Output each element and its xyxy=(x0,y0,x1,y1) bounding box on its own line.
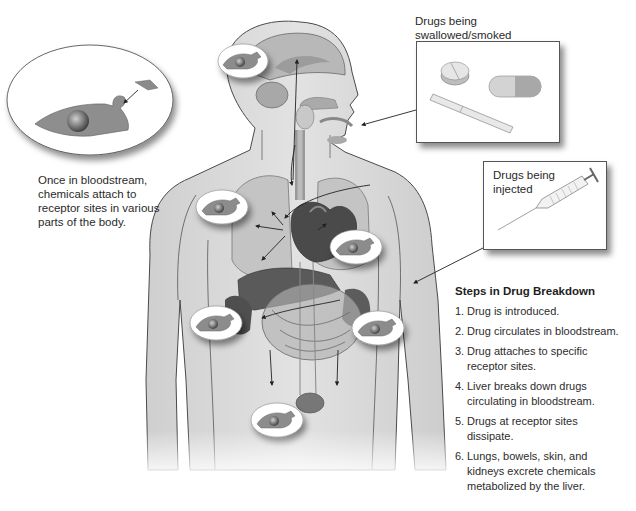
swallowed-box xyxy=(416,41,560,143)
step-number: 2. xyxy=(455,324,467,339)
step-number: 3. xyxy=(455,344,467,374)
receptor-site-left-shoulder xyxy=(196,190,248,224)
step-number: 4. xyxy=(455,379,467,409)
step-number: 1. xyxy=(455,304,467,319)
steps-list: 1.Drug is introduced. 2.Drug circulates … xyxy=(455,304,635,494)
syringe-icon xyxy=(498,168,598,230)
receptor-site-right-hip xyxy=(352,311,404,345)
receptor-callout-bubble xyxy=(7,45,173,155)
step-item: 5.Drugs at receptor sites dissipate. xyxy=(455,414,635,444)
receptor-caption: Once in bloodstream, chemicals attach to… xyxy=(38,173,170,229)
step-text: Lungs, bowels, skin, and kidneys excrete… xyxy=(467,449,597,494)
receptor-site-left-hip xyxy=(190,306,242,340)
receptor-site-heart xyxy=(330,230,382,264)
step-text: Drug circulates in bloodstream. xyxy=(467,324,635,339)
step-item: 3.Drug attaches to specific receptor sit… xyxy=(455,344,635,374)
step-item: 2.Drug circulates in bloodstream. xyxy=(455,324,635,339)
pill-icon xyxy=(441,62,469,85)
steps-heading: Steps in Drug Breakdown xyxy=(455,285,635,297)
swallowed-label: Drugs being swallowed/smoked xyxy=(415,14,525,42)
receptor-site-brain xyxy=(218,44,268,78)
step-text: Liver breaks down drugs circulating in b… xyxy=(467,379,602,409)
capsule-icon xyxy=(489,76,542,97)
step-text: Drug is introduced. xyxy=(467,304,635,319)
injected-box: Drugs being injected xyxy=(483,161,607,250)
step-number: 6. xyxy=(455,449,467,494)
step-text: Drugs at receptor sites dissipate. xyxy=(467,414,587,444)
step-item: 1.Drug is introduced. xyxy=(455,304,635,319)
step-item: 4.Liver breaks down drugs circulating in… xyxy=(455,379,635,409)
cigarette-icon xyxy=(430,94,513,133)
steps-panel: Steps in Drug Breakdown 1.Drug is introd… xyxy=(455,285,635,499)
bladder xyxy=(296,393,324,413)
step-number: 5. xyxy=(455,414,467,444)
step-text: Drug attaches to specific receptor sites… xyxy=(467,344,597,374)
step-item: 6.Lungs, bowels, skin, and kidneys excre… xyxy=(455,449,635,494)
swallowed-pointer-arrow xyxy=(362,110,416,125)
